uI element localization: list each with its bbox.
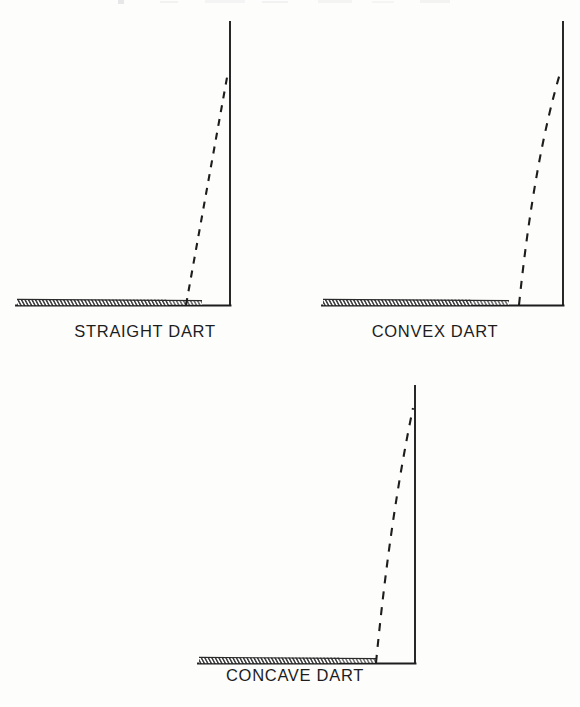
- hatched-band-concave: [199, 657, 376, 663]
- scan-smudge: [0, 0, 580, 10]
- dart-drawing-straight: [0, 10, 290, 320]
- dart-panel-convex: CONVEX DART: [290, 10, 580, 358]
- caption-concave-dart: CONCAVE DART: [150, 666, 440, 685]
- dart-line-straight: [186, 72, 228, 305]
- dart-drawing-concave: [150, 378, 440, 668]
- dart-drawing-convex: [290, 10, 580, 320]
- hatched-band-convex: [323, 299, 509, 305]
- dart-line-concave: [376, 408, 413, 663]
- dart-line-convex: [519, 70, 561, 305]
- dart-panel-straight: STRAIGHT DART: [0, 10, 290, 358]
- caption-convex-dart: CONVEX DART: [290, 322, 580, 341]
- caption-straight-dart: STRAIGHT DART: [0, 322, 290, 341]
- figure-sheet: STRAIGHT DART CONVEX DART: [0, 0, 580, 707]
- dart-panel-concave: CONCAVE DART: [150, 378, 440, 707]
- hatched-band-straight: [17, 299, 202, 305]
